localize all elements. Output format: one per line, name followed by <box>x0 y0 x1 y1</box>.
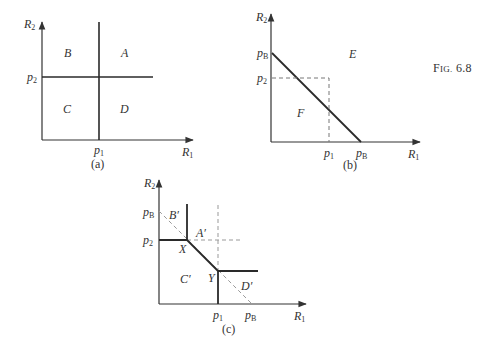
panel-a-caption: (a) <box>91 157 104 172</box>
region-b-prime: B′ <box>169 209 179 221</box>
region-a-prime: A′ <box>196 227 206 239</box>
figure-label: FIG. 6.8 <box>433 61 472 76</box>
panel-c-caption: (c) <box>222 322 235 337</box>
panel-b-p2-tick: p2 <box>257 72 267 88</box>
region-d: D <box>120 103 129 115</box>
panel-a-p2-tick: p2 <box>27 71 37 87</box>
point-y: Y <box>208 272 215 284</box>
point-x: X <box>179 243 186 255</box>
panel-c-x-axis-label: R1 <box>294 310 305 326</box>
panel-a-y-axis-label: R2 <box>24 18 35 34</box>
panel-a-x-axis-label: R1 <box>182 146 193 162</box>
panel-c-boundary-diagonal <box>187 240 218 271</box>
panel-b <box>271 14 420 142</box>
panel-b-p1-tick: p1 <box>324 147 334 163</box>
panel-b-budget-line <box>272 53 361 142</box>
panel-c-pB-x-tick: pB <box>245 309 256 325</box>
region-e: E <box>349 48 356 60</box>
panel-b-y-axis-label: R2 <box>256 11 267 27</box>
region-c-prime: C′ <box>180 273 191 285</box>
region-c: C <box>63 103 71 115</box>
panel-c-pB-y-tick: pB <box>143 206 154 222</box>
panel-b-caption: (b) <box>343 158 357 173</box>
region-b: B <box>64 47 71 59</box>
panel-b-pB-x-tick: pB <box>356 147 367 163</box>
region-a: A <box>121 47 128 59</box>
panel-a <box>42 22 193 140</box>
panel-c-p2-tick: p2 <box>143 234 153 250</box>
figure-canvas <box>0 0 494 352</box>
region-f: F <box>297 107 304 119</box>
panel-b-pB-y-tick: pB <box>257 47 268 63</box>
panel-b-x-axis-label: R1 <box>408 148 419 164</box>
region-d-prime: D′ <box>241 280 252 292</box>
panel-c-y-axis-label: R2 <box>144 177 155 193</box>
